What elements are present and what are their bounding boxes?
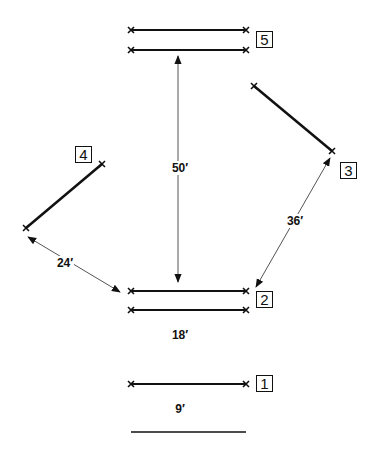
position-2-lines [131,291,246,310]
position-1-line [128,381,249,387]
dimension-9-label: 9′ [174,402,186,416]
diagram-canvas [0,0,381,455]
position-4-label: 4 [75,146,92,163]
position-5-label: 5 [256,31,273,48]
dimension-36-label: 36′ [286,214,304,228]
position-4-line [23,161,105,231]
dimension-50-label: 50′ [171,161,189,175]
position-3-line [251,83,335,154]
dimension-24-label: 24′ [56,256,74,270]
position-5-lines [131,30,246,50]
position-3-label: 3 [340,162,357,179]
position-2-label: 2 [256,291,273,308]
position-1-label: 1 [256,375,273,392]
dimension-18-label: 18′ [171,328,189,342]
